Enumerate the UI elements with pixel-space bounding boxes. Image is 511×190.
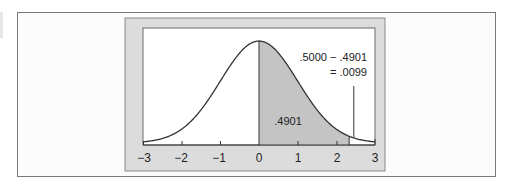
tick-label-neg3: −3 — [137, 151, 151, 165]
annotation-line-2: = .0099 — [330, 66, 367, 78]
shaded-area-label: .4901 — [274, 115, 302, 127]
tick-label-neg1: −1 — [212, 151, 226, 165]
annotation-line-1: .5000 − .4901 — [299, 51, 367, 63]
tick-label-0: 0 — [256, 151, 263, 165]
tick-label-2: 2 — [334, 151, 341, 165]
normal-distribution-chart: −3 −2 −1 0 1 2 3 .4901 .5000 − .4901 = .… — [0, 0, 511, 190]
tick-label-neg2: −2 — [174, 151, 188, 165]
tick-label-1: 1 — [295, 151, 302, 165]
tick-label-3: 3 — [372, 151, 379, 165]
